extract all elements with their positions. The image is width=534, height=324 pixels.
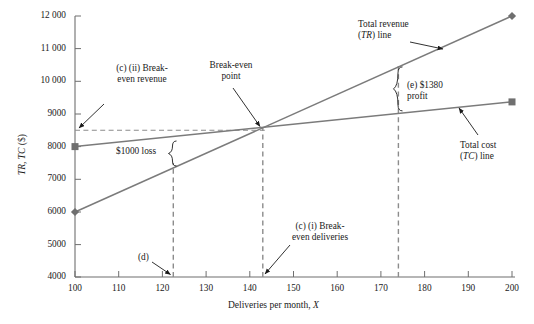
y-tick-label: 4000 — [24, 271, 66, 281]
annotation-total-revenue-line: Total revenue (TR) line — [358, 19, 409, 41]
annotation-break-even-point: Break-even point — [192, 60, 270, 82]
x-tick-label: 200 — [492, 283, 532, 293]
profit-brace — [394, 67, 403, 111]
total-revenue-line — [75, 16, 512, 212]
annotation-break-even-point-line1: Break-even — [192, 60, 270, 71]
tr-start-marker — [71, 208, 79, 216]
x-tick-label: 120 — [142, 283, 182, 293]
loss-brace — [169, 141, 177, 166]
y-tick-label: 12 000 — [24, 10, 66, 20]
x-tick-label: 160 — [317, 283, 357, 293]
x-axis-ticks — [75, 271, 512, 277]
annotation-break-even-point-line2: point — [192, 71, 270, 82]
x-axis-title-text: Deliveries per month, — [228, 300, 313, 310]
annotation-break-even-revenue: (c) (ii) Break- even revenue — [99, 63, 185, 85]
y-axis-title-symbol: TR, TC — [17, 148, 27, 175]
y-tick-label: 8000 — [24, 141, 66, 151]
point-d-arrow — [152, 262, 171, 275]
annotation-total-cost-line1: Total cost — [460, 140, 496, 151]
break-even-revenue-arrow — [79, 104, 104, 128]
x-axis-title: Deliveries per month, X — [228, 300, 319, 310]
y-tick-label: 10 000 — [24, 75, 66, 85]
total-revenue-label-arrow — [410, 42, 443, 49]
total-cost-line — [75, 102, 512, 147]
y-axis-title: TR, TC ($) — [17, 134, 27, 175]
tc-end-marker — [509, 98, 516, 105]
y-tick-label: 6000 — [24, 206, 66, 216]
annotation-break-even-revenue-line1: (c) (ii) Break- — [99, 63, 185, 74]
tc-start-marker — [72, 143, 79, 150]
break-even-chart: 12 000 11 000 10 000 9000 8000 7000 6000… — [0, 0, 534, 324]
paren-close-line: ) line — [372, 30, 391, 40]
x-tick-label: 130 — [186, 283, 226, 293]
x-tick-label: 110 — [99, 283, 139, 293]
annotation-total-revenue-line1: Total revenue — [358, 19, 409, 30]
total-cost-label-arrow — [459, 108, 478, 135]
annotation-total-cost-line: Total cost (TC) line — [460, 140, 496, 162]
annotation-profit-line2: profit — [407, 91, 443, 102]
annotation-break-even-revenue-line2: even revenue — [99, 74, 185, 85]
paren-close-line: ) line — [474, 151, 493, 161]
y-tick-label: 11 000 — [24, 43, 66, 53]
annotation-break-even-deliveries: (c) (i) Break- even deliveries — [272, 221, 368, 243]
y-tick-label: 7000 — [24, 173, 66, 183]
tr-end-marker — [508, 12, 516, 20]
tc-symbol: TC — [463, 151, 474, 161]
x-tick-label: 100 — [55, 283, 95, 293]
annotation-break-even-deliveries-line2: even deliveries — [272, 232, 368, 243]
x-tick-label: 180 — [405, 283, 445, 293]
break-even-point-arrow — [233, 88, 260, 127]
annotation-total-cost-line2: (TC) line — [460, 151, 496, 162]
chart-plot-area — [0, 0, 534, 324]
annotation-point-d: (d) — [138, 252, 149, 263]
y-tick-label: 5000 — [24, 239, 66, 249]
x-tick-label: 190 — [448, 283, 488, 293]
x-tick-label: 150 — [274, 283, 314, 293]
x-tick-label: 170 — [361, 283, 401, 293]
break-even-deliveries-arrow — [265, 245, 290, 274]
annotation-profit-line1: (e) $1380 — [407, 80, 443, 91]
y-tick-label: 9000 — [24, 108, 66, 118]
x-tick-label: 140 — [230, 283, 270, 293]
x-axis-title-symbol: X — [313, 300, 319, 310]
annotation-profit: (e) $1380 profit — [407, 80, 443, 102]
annotation-total-revenue-line2: (TR) line — [358, 30, 409, 41]
tr-symbol: TR — [361, 30, 372, 40]
annotation-loss: $1000 loss — [116, 146, 156, 157]
annotation-break-even-deliveries-line1: (c) (i) Break- — [272, 221, 368, 232]
y-axis-title-units: ($) — [17, 134, 27, 147]
